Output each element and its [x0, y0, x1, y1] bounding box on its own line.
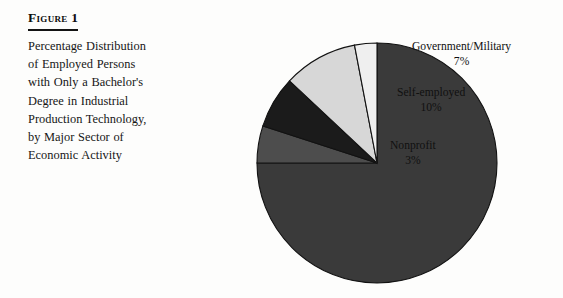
pie-label-nonprofit-value: 3%: [390, 154, 436, 169]
caption-line: Economic Activity: [28, 146, 180, 164]
pie-chart-area: Education 5% Government/Military 7% Self…: [190, 0, 563, 298]
pie-label-self-employed-name: Self-employed: [397, 86, 465, 101]
pie-label-self-employed-value: 10%: [397, 101, 465, 116]
caption-line: of Employed Persons: [28, 55, 180, 73]
pie-label-government-military-name: Government/Military: [412, 40, 511, 55]
pie-label-nonprofit: Nonprofit 3%: [390, 139, 436, 169]
caption-line: Production Technology,: [28, 110, 180, 128]
pie-label-government-military-value: 7%: [412, 55, 511, 70]
caption-line: Percentage Distribution: [28, 37, 180, 55]
figure-caption-block: Figure 1 Percentage Distribution of Empl…: [28, 8, 180, 165]
caption-line: with Only a Bachelor's: [28, 73, 180, 91]
pie-label-nonprofit-name: Nonprofit: [390, 139, 436, 154]
pie-slice-group: [257, 43, 497, 283]
figure-number-heading: Figure 1: [28, 10, 78, 31]
pie-label-government-military: Government/Military 7%: [412, 40, 511, 70]
figure-caption-text: Percentage Distribution of Employed Pers…: [28, 37, 180, 165]
caption-line: Degree in Industrial: [28, 92, 180, 110]
caption-line: by Major Sector of: [28, 128, 180, 146]
pie-label-self-employed: Self-employed 10%: [397, 86, 465, 116]
figure-page: Figure 1 Percentage Distribution of Empl…: [0, 0, 563, 298]
